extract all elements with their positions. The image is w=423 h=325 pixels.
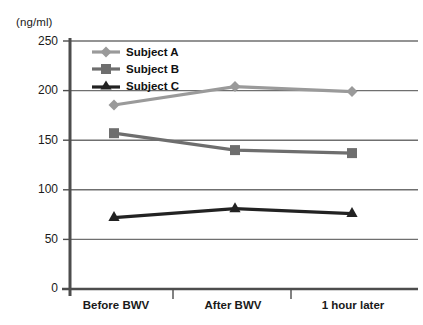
series-b-marker-0 [109,128,119,138]
legend-label-subject-a: Subject A [126,46,179,58]
legend-label-subject-b: Subject B [126,63,179,75]
plot-area [0,0,423,325]
legend-marker-diamond-icon [92,45,120,59]
chart-legend: Subject A Subject B Subject C [92,44,179,93]
series-b-marker-1 [230,145,240,155]
legend-item-subject-c: Subject C [92,78,179,93]
series-a-marker-2 [347,86,358,97]
legend-item-subject-a: Subject A [92,44,179,59]
x-tick-label-after-bwv: After BWV [205,299,262,311]
series-c-marker-1 [229,202,240,212]
legend-item-subject-b: Subject B [92,61,179,76]
line-chart: (ng/ml) 250 200 150 100 50 0 [0,0,423,325]
legend-label-subject-c: Subject C [126,80,179,92]
legend-marker-triangle-icon [92,79,120,93]
series-subject-c [108,202,357,221]
series-subject-b [109,128,357,158]
x-tick-label-1-hour-later: 1 hour later [322,299,385,311]
series-b-marker-2 [347,148,357,158]
x-tick-marks [173,289,291,299]
legend-marker-square-icon [92,62,120,76]
x-tick-label-before-bwv: Before BWV [83,299,149,311]
series-a-marker-0 [109,100,120,111]
